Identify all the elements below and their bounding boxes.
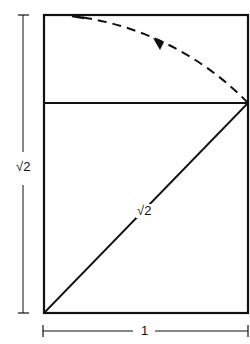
outer-rectangle [44, 15, 248, 313]
dashed-arc [80, 17, 248, 103]
diagram-canvas [0, 0, 250, 344]
diagonal-label: √2 [136, 204, 152, 218]
height-label: √2 [15, 160, 31, 174]
arc-end [72, 16, 84, 18]
width-label: 1 [140, 324, 149, 338]
